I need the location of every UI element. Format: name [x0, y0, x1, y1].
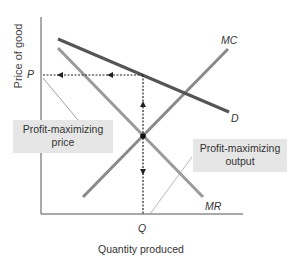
output-callout: Profit-maximizing output [193, 139, 287, 172]
y-axis-label: Price of good [12, 16, 24, 96]
price-callout-line2: price [17, 136, 109, 149]
arrow-left-icon [57, 72, 63, 78]
mr-mc-intersection-point [140, 133, 146, 139]
price-tick-label: P [27, 68, 34, 80]
x-axis-label: Quantity produced [98, 243, 184, 255]
arrow-down-icon [140, 169, 146, 175]
mr-curve-label: MR [205, 200, 221, 212]
price-callout: Profit-maximizing price [13, 120, 113, 153]
output-callout-line1: Profit-maximizing [197, 142, 283, 155]
quantity-tick-label: Q [138, 222, 146, 234]
output-callout-line2: output [197, 155, 283, 168]
arrow-left-icon [107, 72, 113, 78]
arrow-up-icon [140, 101, 146, 107]
price-callout-leader [43, 78, 78, 120]
demand-curve-label: D [231, 112, 239, 124]
price-callout-line1: Profit-maximizing [17, 123, 109, 136]
mc-curve-label: MC [221, 34, 237, 46]
